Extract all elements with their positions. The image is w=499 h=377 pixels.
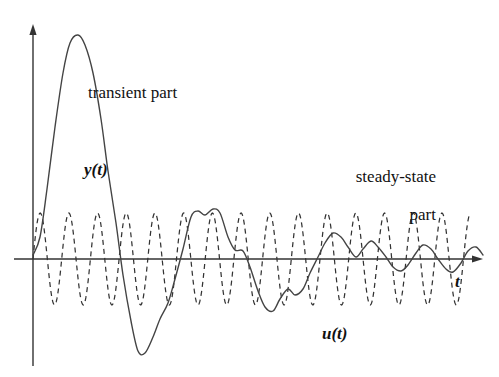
t-axis-arrow-icon [472,255,483,262]
transient-part-label: transient part [88,83,177,102]
steady-state-label-line2: part [410,205,436,224]
time-axis-label: t [455,272,460,291]
output-signal-label: y(t) [84,160,108,179]
input-signal-label: u(t) [322,324,348,343]
figure-container: transient part steady-state part y(t) u(… [0,0,499,377]
steady-state-label-line1: steady-state [356,167,436,186]
y-axis-arrow-icon [29,24,36,35]
steady-state-part-label: steady-state part [318,148,436,243]
